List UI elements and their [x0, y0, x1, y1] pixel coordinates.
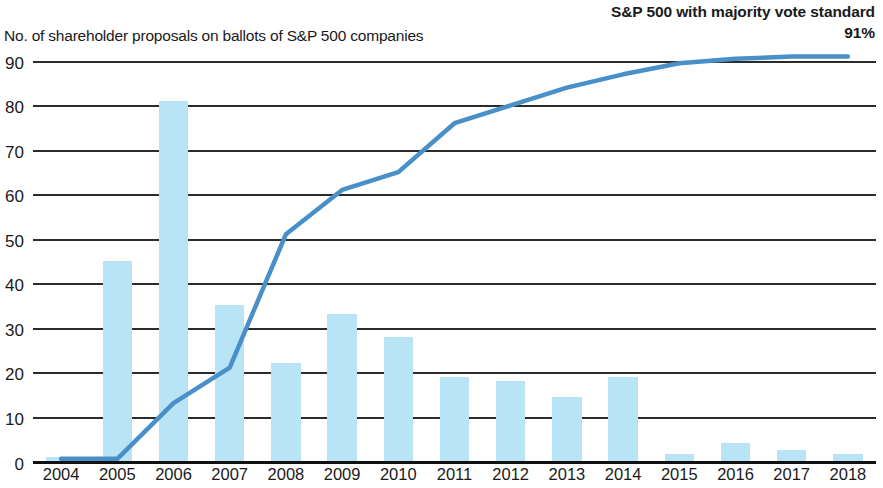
y-axis-tick-label: 80: [5, 99, 24, 116]
x-axis-tick-label: 2004: [43, 465, 80, 483]
bar-series-title: No. of shareholder proposals on ballots …: [4, 26, 423, 46]
x-axis-tick-label: 2014: [605, 465, 642, 483]
line-series-value: 91%: [535, 22, 875, 43]
x-axis-tick-label: 2010: [380, 465, 417, 483]
line-series-title: S&P 500 with majority vote standard: [535, 1, 875, 22]
chart-page: S&P 500 with majority vote standard 91% …: [0, 0, 883, 488]
x-axis-tick-label: 2005: [99, 465, 136, 483]
gridline: 0: [33, 461, 876, 464]
y-axis-tick-label: 30: [5, 321, 24, 338]
x-axis-tick-label: 2013: [549, 465, 586, 483]
line-series-header: S&P 500 with majority vote standard 91%: [535, 1, 875, 43]
y-axis-tick-label: 40: [5, 277, 24, 294]
y-axis-tick-label: 70: [5, 143, 24, 160]
plot-area: 0102030405060708090 20042005200620072008…: [33, 61, 876, 461]
x-axis-tick-label: 2015: [661, 465, 698, 483]
x-axis-tick-label: 2006: [155, 465, 192, 483]
x-axis-tick-label: 2008: [268, 465, 305, 483]
y-axis-tick-label: 10: [5, 410, 24, 427]
x-axis-tick-label: 2016: [717, 465, 754, 483]
x-axis-tick-label: 2011: [437, 465, 472, 483]
line-series-path: [33, 61, 876, 461]
x-axis-tick-label: 2018: [830, 465, 867, 483]
y-axis-tick-label: 50: [5, 232, 24, 249]
y-axis-tick-label: 20: [5, 366, 24, 383]
x-axis-tick-label: 2007: [211, 465, 248, 483]
y-axis-tick-label: 60: [5, 188, 24, 205]
y-axis-tick-label: 0: [15, 456, 24, 473]
x-axis-tick-label: 2017: [773, 465, 810, 483]
x-axis-tick-label: 2009: [324, 465, 361, 483]
y-axis-tick-label: 90: [5, 55, 24, 72]
x-axis-tick-label: 2012: [492, 465, 529, 483]
